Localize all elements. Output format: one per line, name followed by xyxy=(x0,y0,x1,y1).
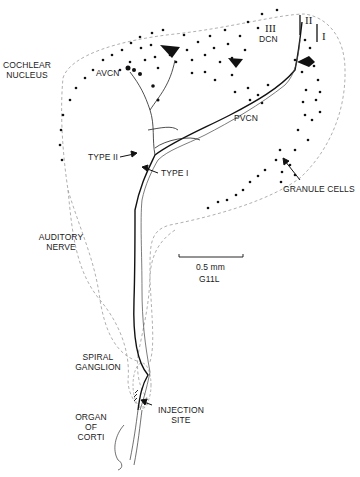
label-layer-iii: III xyxy=(265,22,276,34)
label-line: SPIRAL xyxy=(74,352,122,362)
label-line: GANGLION xyxy=(74,362,122,372)
peripheral-process xyxy=(115,410,142,470)
type-i-axon xyxy=(134,22,302,410)
label-pvcn: PVCN xyxy=(234,113,258,123)
auditory-nerve-outline xyxy=(68,190,175,362)
type-ii-axon xyxy=(140,40,300,410)
scale-bar-specimen-id: G11L xyxy=(199,274,220,284)
label-injection-site: INJECTION SITE xyxy=(158,405,204,425)
label-line: NUCLEUS xyxy=(0,70,54,80)
scale-bar xyxy=(179,254,243,257)
label-dcn: DCN xyxy=(259,34,278,44)
label-line: INJECTION xyxy=(158,405,204,415)
injection-site-mark xyxy=(134,390,138,401)
label-organ-of-corti: ORGAN OF CORTI xyxy=(74,412,108,442)
label-line: AUDITORY xyxy=(36,232,86,242)
label-line: CORTI xyxy=(74,432,108,442)
label-line: NERVE xyxy=(36,242,86,252)
label-line: COCHLEAR xyxy=(0,60,54,70)
label-avcn: AVCN xyxy=(96,68,119,78)
granule-cell-dots xyxy=(59,9,322,210)
label-line: SITE xyxy=(158,415,204,425)
avcn-terminals xyxy=(126,66,160,102)
scale-bar-length: 0.5 mm xyxy=(196,262,225,272)
label-layer-ii: II xyxy=(305,14,312,26)
label-granule-cells: GRANULE CELLS xyxy=(283,184,355,194)
label-line: OF xyxy=(74,422,108,432)
label-line: ORGAN xyxy=(74,412,108,422)
label-type-i: TYPE I xyxy=(161,168,189,178)
label-auditory-nerve: AUDITORY NERVE xyxy=(36,232,86,252)
cluster-markers xyxy=(160,45,315,68)
label-layer-i: I xyxy=(322,30,326,42)
label-cochlear-nucleus: COCHLEAR NUCLEUS xyxy=(0,60,54,80)
label-spiral-ganglion: SPIRAL GANGLION xyxy=(74,352,122,372)
label-type-ii: TYPE II xyxy=(88,152,118,162)
